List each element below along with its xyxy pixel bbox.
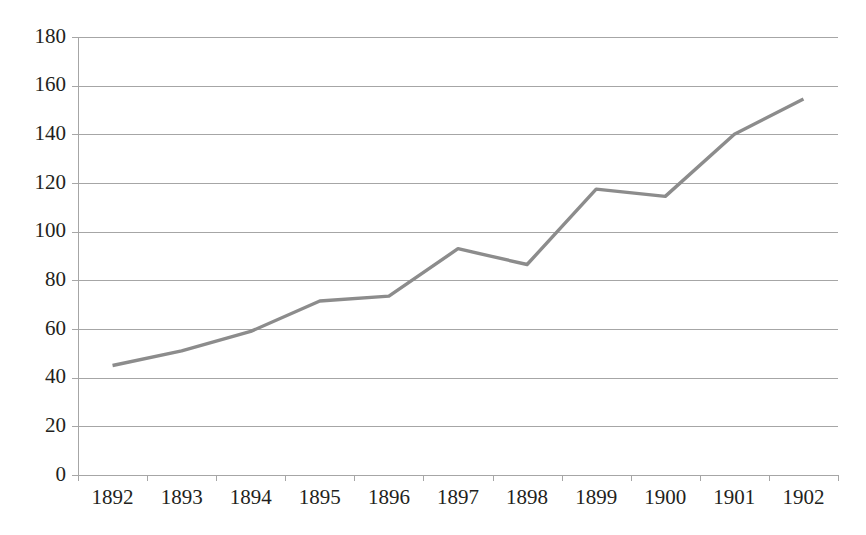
y-axis-tick-label: 60 xyxy=(45,316,66,340)
x-axis-tick-label: 1902 xyxy=(782,485,824,509)
x-axis-tick-label: 1899 xyxy=(575,485,617,509)
x-axis-tick-labels: 1892189318941895189618971898189919001901… xyxy=(92,485,825,509)
y-axis-tick-label: 80 xyxy=(45,267,66,291)
gridlines xyxy=(78,38,838,427)
x-axis-tick-label: 1895 xyxy=(299,485,341,509)
y-axis-tick-label: 140 xyxy=(35,121,67,145)
line-chart: 020406080100120140160180 189218931894189… xyxy=(0,0,866,535)
x-axis-tick-label: 1897 xyxy=(437,485,479,509)
x-axis-tick-label: 1901 xyxy=(713,485,755,509)
y-axis-tick-label: 100 xyxy=(35,218,67,242)
y-axis-tick-marks xyxy=(72,38,78,476)
x-axis-tick-label: 1896 xyxy=(368,485,410,509)
x-axis-tick-label: 1892 xyxy=(92,485,134,509)
y-axis-tick-label: 40 xyxy=(45,364,66,388)
x-axis-tick-label: 1898 xyxy=(506,485,548,509)
y-axis-tick-label: 180 xyxy=(35,24,67,48)
y-axis-tick-label: 0 xyxy=(56,462,67,486)
x-axis-tick-label: 1894 xyxy=(230,485,273,509)
y-axis-tick-label: 20 xyxy=(45,413,66,437)
y-axis-tick-label: 120 xyxy=(35,170,67,194)
y-axis-tick-label: 160 xyxy=(35,72,67,96)
y-axis-tick-labels: 020406080100120140160180 xyxy=(35,24,67,486)
x-axis-tick-label: 1893 xyxy=(161,485,203,509)
x-axis-tick-label: 1900 xyxy=(644,485,686,509)
chart-canvas: 020406080100120140160180 189218931894189… xyxy=(0,0,866,535)
